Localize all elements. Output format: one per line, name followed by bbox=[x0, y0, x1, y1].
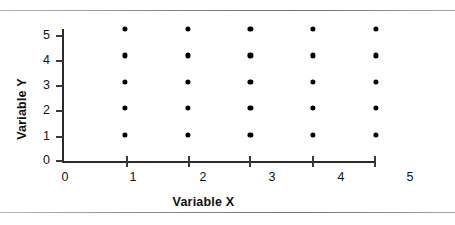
y-tick-0 bbox=[56, 160, 63, 161]
y-tick-1 bbox=[56, 136, 63, 137]
y-axis-line bbox=[62, 29, 64, 162]
data-point bbox=[373, 53, 378, 58]
y-tick-label-3: 3 bbox=[36, 79, 50, 92]
data-point bbox=[185, 26, 190, 31]
y-tick-5 bbox=[56, 35, 63, 36]
data-point bbox=[311, 79, 316, 84]
x-tick-3 bbox=[249, 156, 250, 167]
x-axis-title: Variable X bbox=[0, 195, 455, 209]
data-point bbox=[185, 106, 190, 111]
data-point bbox=[185, 132, 190, 137]
data-point bbox=[373, 132, 378, 137]
x-tick-label-0: 0 bbox=[57, 171, 73, 184]
page-rule-bottom bbox=[0, 212, 455, 213]
y-tick-3 bbox=[56, 85, 63, 86]
x-tick-label-1: 1 bbox=[125, 171, 141, 184]
data-point bbox=[248, 26, 253, 31]
y-tick-label-2: 2 bbox=[36, 104, 50, 117]
data-point bbox=[122, 132, 127, 137]
x-tick-5 bbox=[374, 156, 375, 167]
y-tick-2 bbox=[56, 110, 63, 111]
x-axis-line bbox=[62, 161, 376, 163]
y-axis-title-text: Variable Y bbox=[15, 78, 29, 140]
data-point bbox=[122, 53, 127, 58]
data-point bbox=[248, 132, 253, 137]
data-point bbox=[122, 106, 127, 111]
data-point bbox=[311, 53, 316, 58]
data-point bbox=[373, 79, 378, 84]
y-axis-title: Variable Y bbox=[14, 59, 30, 159]
data-point bbox=[311, 106, 316, 111]
y-tick-4 bbox=[56, 60, 63, 61]
x-tick-label-4: 4 bbox=[333, 171, 349, 184]
y-tick-label-0: 0 bbox=[36, 154, 50, 167]
x-tick-label-3: 3 bbox=[264, 171, 280, 184]
data-point bbox=[248, 53, 253, 58]
x-axis-title-text: Variable X bbox=[173, 195, 235, 209]
data-point bbox=[122, 26, 127, 31]
x-tick-1 bbox=[126, 156, 127, 167]
y-tick-label-5: 5 bbox=[36, 29, 50, 42]
x-tick-label-2: 2 bbox=[195, 171, 211, 184]
data-point bbox=[311, 26, 316, 31]
y-tick-label-4: 4 bbox=[36, 54, 50, 67]
data-point bbox=[373, 26, 378, 31]
data-point bbox=[122, 79, 127, 84]
data-point bbox=[373, 106, 378, 111]
x-tick-4 bbox=[312, 156, 313, 167]
data-point bbox=[185, 53, 190, 58]
data-point bbox=[248, 106, 253, 111]
data-point bbox=[185, 79, 190, 84]
data-point bbox=[248, 79, 253, 84]
x-tick-2 bbox=[188, 156, 189, 167]
y-tick-label-1: 1 bbox=[36, 130, 50, 143]
scatter-plot-figure: 012345 012345 Variable Y Variable X bbox=[0, 11, 455, 211]
x-tick-label-5: 5 bbox=[402, 171, 418, 184]
data-point bbox=[311, 132, 316, 137]
